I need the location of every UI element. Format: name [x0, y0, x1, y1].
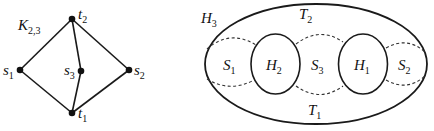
- dashed-s2-top: [386, 43, 425, 52]
- dashed-s1-bottom: [207, 79, 254, 86]
- dashed-s2-bottom: [386, 76, 425, 85]
- dashed-s3-bottom: [296, 86, 343, 95]
- edge-s2-t2: [72, 19, 129, 70]
- label-s1: s1: [3, 62, 14, 81]
- surface-diagram: H3 T2 T1 S1 H2 S3 H1 S2: [200, 4, 427, 124]
- label-h3: H3: [200, 10, 217, 29]
- vertex-t2: [69, 16, 76, 23]
- vertex-s1: [17, 67, 24, 74]
- label-s3: s3: [64, 62, 75, 81]
- vertex-t1: [69, 110, 76, 117]
- label-h1: H1: [353, 57, 370, 76]
- dashed-s3-top: [296, 34, 343, 44]
- label-s2-region: S2: [398, 57, 411, 76]
- graph-title: K2,3: [17, 17, 41, 36]
- label-s1-region: S1: [223, 57, 236, 76]
- vertex-s2: [126, 67, 133, 74]
- vertex-s3: [78, 68, 85, 75]
- label-t1: t1: [78, 105, 87, 124]
- figure: K2,3 t2 s1 s3 s2 t1 H3 T2 T1 S1 H2 S3 H1…: [0, 0, 434, 131]
- label-h2: H2: [265, 57, 282, 76]
- label-t2-region: T2: [299, 6, 312, 25]
- label-s3-region: S3: [311, 57, 324, 76]
- label-s2: s2: [134, 62, 145, 81]
- label-t1-region: T1: [308, 102, 321, 121]
- label-t2: t2: [78, 6, 87, 25]
